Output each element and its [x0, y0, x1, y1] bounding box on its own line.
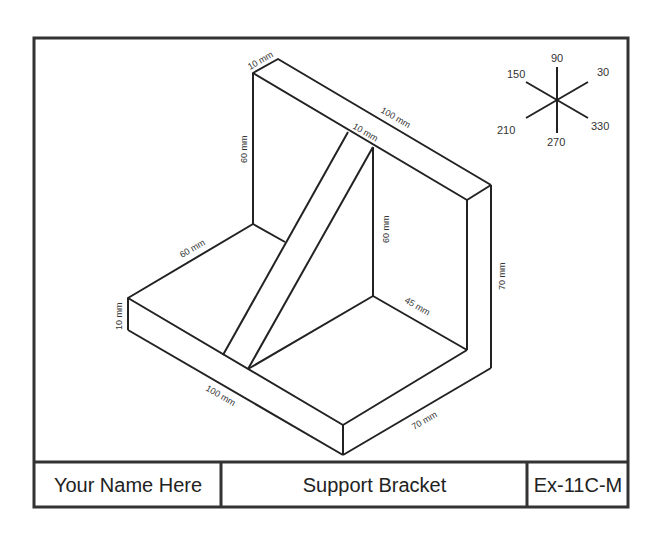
dim-base-thickness: 10 mm	[114, 302, 124, 330]
dim-top-length: 100 mm	[379, 105, 412, 130]
dim-rib-height: 60 mm	[381, 215, 391, 243]
title-block-title: Support Bracket	[223, 463, 526, 507]
drawing-sheet: 10 mm 100 mm 10 mm 60 mm 60 mm 70 mm 60 …	[0, 0, 662, 534]
axis-label-270: 270	[547, 136, 565, 148]
dim-rib-base: 45 mm	[403, 295, 432, 317]
dim-base-depth: 60 mm	[178, 237, 207, 259]
dim-back-height: 60 mm	[239, 135, 249, 163]
title-block-exercise: Ex-11C-M	[529, 463, 627, 507]
axis-label-150: 150	[507, 68, 525, 80]
axis-label-210: 210	[497, 124, 515, 136]
isometric-axis-indicator	[526, 67, 588, 133]
axis-label-30: 30	[597, 66, 609, 78]
axis-label-90: 90	[551, 52, 563, 64]
sheet-border	[34, 38, 628, 507]
dim-right-height: 70 mm	[497, 262, 507, 290]
dim-base-length: 100 mm	[204, 383, 237, 408]
axis-label-330: 330	[591, 120, 609, 132]
title-block-name: Your Name Here	[36, 463, 220, 507]
